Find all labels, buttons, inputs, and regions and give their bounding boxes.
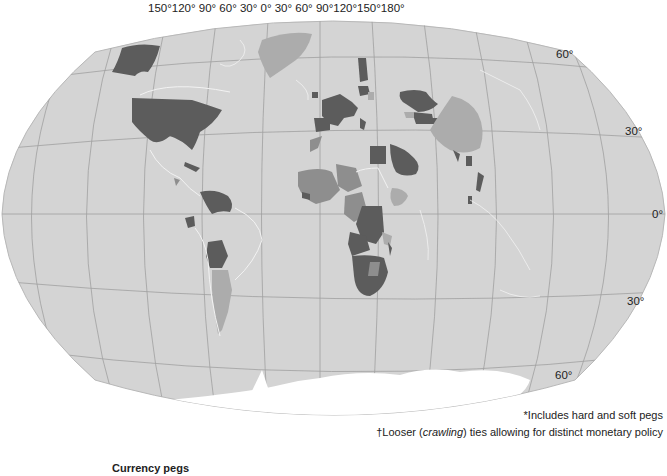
map-title: Currency pegs	[112, 462, 189, 474]
ocean	[2, 21, 665, 415]
ireland	[312, 92, 318, 98]
footnote-crawling: †Looser (crawling) ties allowing for dis…	[376, 426, 663, 438]
footnote-crawling-italic: crawling	[423, 426, 463, 438]
lat-label-60s: 60°	[555, 369, 572, 381]
footnote-crawling-suffix: ) ties allowing for distinct monetary po…	[463, 426, 663, 438]
spain	[314, 118, 330, 132]
egypt	[370, 146, 386, 164]
lat-label-equator: 0°	[652, 208, 663, 220]
lat-label-60n: 60°	[556, 48, 573, 60]
footnote-crawling-prefix: †Looser (	[376, 426, 422, 438]
footnote-pegs: *Includes hard and soft pegs	[524, 409, 663, 421]
lat-label-30s: 30°	[627, 295, 644, 307]
longitude-labels: 150°120° 90° 60° 30° 0° 30° 60° 90°120°1…	[148, 2, 405, 14]
currency-pegs-map: 150°120° 90° 60° 30° 0° 30° 60° 90°120°1…	[0, 0, 667, 476]
world-map-svg	[0, 0, 667, 476]
lat-label-30n: 30°	[625, 125, 642, 137]
